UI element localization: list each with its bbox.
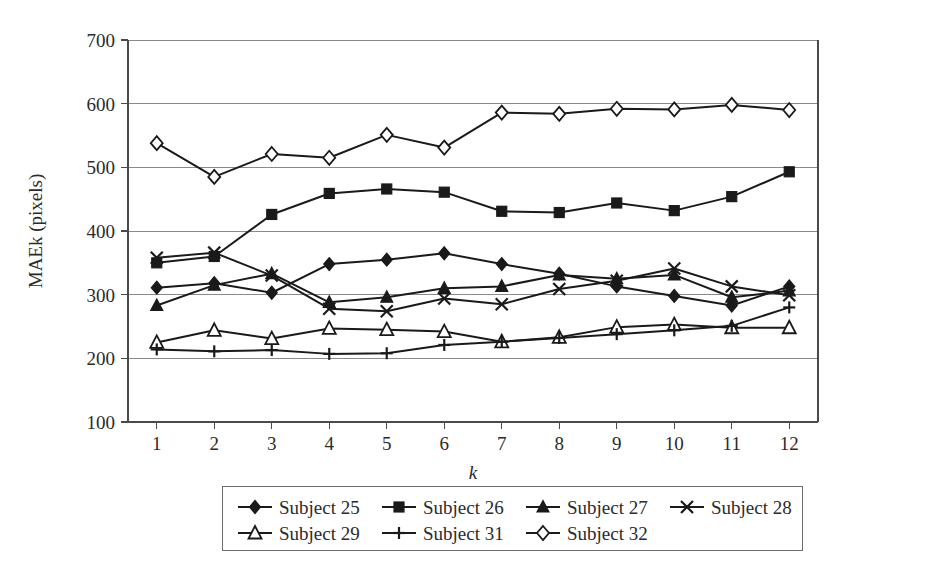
legend: Subject 25Subject 26Subject 27Subject 28… [222,486,802,550]
marker-subject-31-k2 [208,345,220,357]
marker-subject-32-k2 [208,170,220,184]
ytick-label-200: 200 [87,348,116,369]
marker-subject-25-k7 [496,258,507,271]
ytick-label-700: 700 [87,30,116,51]
marker-subject-26-k5 [382,184,392,194]
xtick-label-10: 10 [665,433,684,454]
marker-subject-32-k11 [726,98,738,112]
xtick-label-11: 11 [723,433,741,454]
marker-subject-26-k6 [439,187,449,197]
ytick-label-400: 400 [87,221,116,242]
marker-subject-31-k5 [381,347,393,359]
legend-label-subject-25: Subject 25 [279,497,360,518]
series-line-subject-31 [157,307,790,353]
legend-label-subject-32: Subject 32 [567,523,648,544]
chart-figure: 100200300400500600700123456789101112kMAE… [0,0,925,571]
marker-subject-25-k10 [669,289,680,302]
series-subject-31 [151,301,796,359]
marker-subject-32-k12 [783,103,795,117]
series-group [150,98,796,360]
marker-subject-26-k10 [669,206,679,216]
series-line-subject-29 [157,325,790,343]
marker-subject-32-k8 [553,107,565,121]
legend-label-subject-27: Subject 27 [567,497,648,518]
series-subject-28 [151,247,796,318]
legend-label-subject-28: Subject 28 [711,497,792,518]
xtick-label-9: 9 [612,433,622,454]
marker-subject-26-k4 [324,188,334,198]
series-line-subject-26 [157,172,790,263]
legend-label-subject-31: Subject 31 [423,523,504,544]
legend-label-subject-26: Subject 26 [423,497,504,518]
marker-subject-32-k7 [496,106,508,120]
series-subject-32 [151,98,796,184]
xtick-label-12: 12 [780,433,799,454]
xtick-label-6: 6 [440,433,450,454]
ytick-label-500: 500 [87,157,116,178]
gridlines: 100200300400500600700 [87,30,819,433]
xtick-label-2: 2 [210,433,220,454]
marker-subject-26-k1 [152,258,162,268]
x-axis-ticks: 123456789101112 [152,422,799,454]
marker-subject-26-k7 [497,206,507,216]
legend-label-subject-29: Subject 29 [279,523,360,544]
marker-subject-29-k2 [208,323,221,336]
ytick-label-600: 600 [87,94,116,115]
xtick-label-7: 7 [497,433,507,454]
y-axis-title: MAEk (pixels) [25,174,47,289]
marker-subject-25-k3 [266,286,277,299]
marker-subject-32-k3 [266,147,278,161]
xtick-label-3: 3 [267,433,277,454]
ytick-label-100: 100 [87,412,116,433]
ytick-label-300: 300 [87,285,116,306]
marker-subject-25-k4 [324,258,335,271]
xtick-label-5: 5 [382,433,392,454]
series-subject-26 [152,167,795,268]
marker-subject-31-k12 [783,301,795,313]
series-line-subject-32 [157,105,790,177]
marker-subject-25-k5 [381,253,392,266]
marker-subject-25-k1 [151,281,162,294]
legend-marker-subject-26 [394,502,404,512]
marker-subject-32-k6 [438,141,450,155]
xtick-label-8: 8 [555,433,565,454]
marker-subject-26-k9 [612,198,622,208]
marker-subject-26-k3 [267,209,277,219]
marker-subject-32-k4 [323,151,335,165]
marker-subject-31-k6 [438,339,450,351]
marker-subject-26-k11 [727,192,737,202]
series-line-subject-25 [157,253,790,305]
marker-subject-26-k12 [784,167,794,177]
x-axis-title: k [469,462,478,483]
marker-subject-32-k10 [668,102,680,116]
marker-subject-32-k1 [151,136,163,150]
marker-subject-26-k8 [554,208,564,218]
xtick-label-4: 4 [325,433,335,454]
marker-subject-32-k5 [381,128,393,142]
xtick-label-1: 1 [152,433,162,454]
marker-subject-31-k3 [266,344,278,356]
marker-subject-25-k6 [439,247,450,260]
line-chart: 100200300400500600700123456789101112kMAE… [0,0,925,571]
